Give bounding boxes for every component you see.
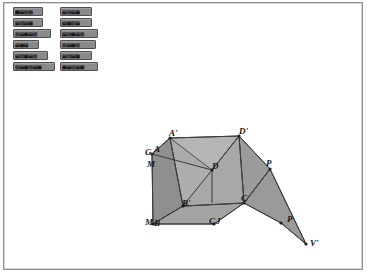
toolbar-button-label: ▤▥▤▦ — [62, 9, 90, 14]
toolbar-left-column: ■▤▥▨▤▥▤▦▥▤▦▤▥▤▦▤▤▥▦▤▥▥▤▦▥▤▦ — [13, 7, 55, 73]
toolbar-button-label: ▥▤▦▥ — [62, 42, 94, 47]
toolbar-button[interactable]: ▤▥▤▦ — [60, 51, 92, 60]
toolbar-right-column: ▤▥▤▦▤▦▥▤▤▥▦▤▥▥▤▦▥▤▥▤▦▦▤▥▤▦ — [60, 7, 98, 73]
toolbar-button-label: ▥▤▦▤▥ — [15, 31, 49, 36]
toolbar-button[interactable]: ▤▦▥▤ — [60, 18, 92, 27]
toolbar-button[interactable]: ▥▤▦▤▥ — [13, 29, 51, 38]
toolbar-button-label: ▤▦▤ — [15, 42, 37, 47]
toolbar-button[interactable]: ▥▤▦▥ — [60, 40, 96, 49]
screenshot-root: ■▤▥▨▤▥▤▦▥▤▦▤▥▤▦▤▤▥▦▤▥▥▤▦▥▤▦ ▤▥▤▦▤▦▥▤▤▥▦▤… — [0, 0, 367, 274]
toolbar-button-label: ▤▦▥▤ — [62, 20, 90, 25]
toolbar-button-label: ▦▤▥▤▦ — [62, 64, 96, 69]
toolbar-button[interactable]: ▤▥▤▦ — [13, 18, 43, 27]
toolbar-button-label: ▥▤▦▥▤▦ — [15, 64, 53, 69]
toolbar-button[interactable]: ▤▥▦▤▥ — [13, 51, 48, 60]
toolbar-button[interactable]: ▦▤▥▤▦ — [60, 62, 98, 71]
toolbar-button-label: ▤▥▦▤▥ — [15, 53, 46, 58]
toolbar-button-label: ▤▥▤▦ — [15, 20, 41, 25]
toolbar-button-label: ■▤▥▨ — [15, 9, 41, 14]
toolbar-button[interactable]: ▥▤▦▥▤▦ — [13, 62, 55, 71]
toolbar-button[interactable]: ▤▦▤ — [13, 40, 39, 49]
toolbar-button[interactable]: ▤▥▦▤▥ — [60, 29, 98, 38]
toolbar-button[interactable]: ▤▥▤▦ — [60, 7, 92, 16]
toolbar-button-label: ▤▥▦▤▥ — [62, 31, 96, 36]
page-frame-inner — [4, 3, 362, 269]
page-frame: ■▤▥▨▤▥▤▦▥▤▦▤▥▤▦▤▤▥▦▤▥▥▤▦▥▤▦ ▤▥▤▦▤▦▥▤▤▥▦▤… — [3, 2, 363, 270]
toolbar-button[interactable]: ■▤▥▨ — [13, 7, 43, 16]
toolbar-button-label: ▤▥▤▦ — [62, 53, 90, 58]
